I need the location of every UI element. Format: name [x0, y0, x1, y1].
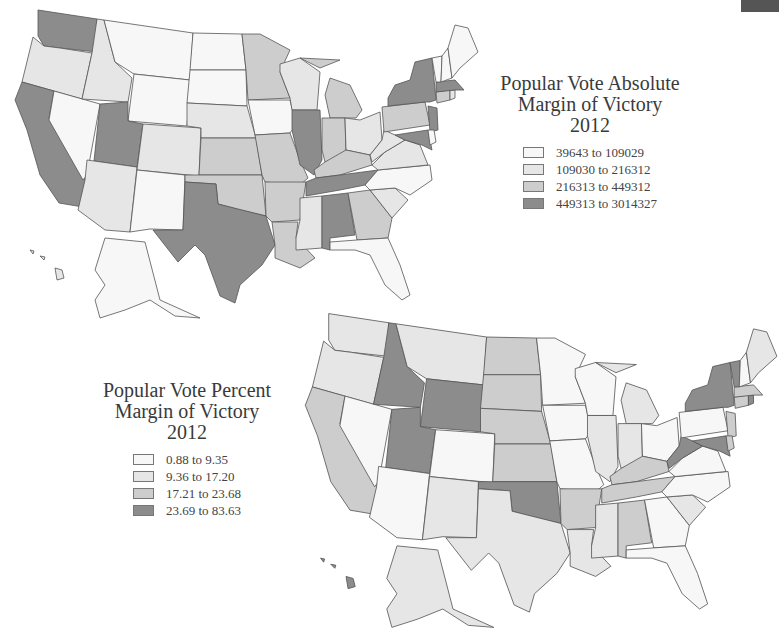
legend-title-line3: 2012 — [490, 115, 690, 136]
map-absolute-margin — [0, 0, 480, 330]
legend-items: 0.88 to 9.35 9.36 to 17.20 17.21 to 23.6… — [133, 451, 241, 519]
state-wy — [420, 379, 483, 432]
state-az — [78, 160, 137, 232]
legend-item: 39643 to 109029 — [523, 144, 657, 161]
state-az — [369, 466, 429, 539]
swatch-class2 — [523, 164, 544, 175]
state-wa — [329, 314, 389, 357]
state-me — [746, 329, 777, 383]
state-me — [448, 25, 478, 78]
state-ri — [450, 90, 455, 100]
legend-absolute: Popular Vote Absolute Margin of Victory … — [490, 73, 690, 213]
state-nj — [428, 106, 438, 132]
legend-item: 0.88 to 9.35 — [133, 451, 241, 468]
state-hi — [321, 558, 356, 589]
swatch-class3 — [133, 488, 154, 499]
swatch-class4 — [523, 198, 544, 209]
legend-title-line1: Popular Vote Absolute — [490, 73, 690, 94]
legend-item: 449313 to 3014327 — [523, 195, 657, 212]
legend-title-line2: Margin of Victory — [82, 401, 292, 422]
legend-item: 216313 to 449312 — [523, 178, 657, 195]
legend-item: 9.36 to 17.20 — [133, 468, 241, 485]
state-hi — [30, 250, 64, 280]
state-nd — [484, 337, 541, 375]
swatch-class1 — [523, 147, 544, 158]
legend-title-line2: Margin of Victory — [490, 94, 690, 115]
state-ks — [199, 138, 262, 175]
swatch-class4 — [133, 505, 154, 516]
legend-label: 17.21 to 23.68 — [166, 486, 241, 502]
legend-label: 23.69 to 83.63 — [166, 503, 241, 519]
state-wy — [128, 74, 190, 126]
state-sd — [481, 375, 542, 412]
state-nm — [130, 170, 185, 232]
state-ri — [748, 395, 753, 405]
state-nj — [726, 411, 736, 437]
legend-items: 39643 to 109029 109030 to 216312 216313 … — [523, 144, 657, 212]
state-ny — [685, 362, 734, 411]
legend-item: 109030 to 216312 — [523, 161, 657, 178]
legend-label: 9.36 to 17.20 — [166, 469, 235, 485]
state-ks — [493, 444, 557, 482]
legend-item: 23.69 to 83.63 — [133, 502, 241, 519]
state-ny — [388, 58, 436, 106]
legend-label: 109030 to 216312 — [556, 162, 651, 178]
state-co — [137, 124, 201, 176]
legend-label: 449313 to 3014327 — [556, 196, 657, 212]
state-ia — [248, 100, 296, 135]
state-pa — [382, 102, 430, 132]
legend-title-line1: Popular Vote Percent — [82, 380, 292, 401]
legend-item: 17.21 to 23.68 — [133, 485, 241, 502]
legend-label: 0.88 to 9.35 — [166, 452, 228, 468]
legend-percent: Popular Vote Percent Margin of Victory 2… — [82, 380, 292, 520]
state-nm — [422, 477, 478, 540]
state-pa — [679, 407, 728, 438]
state-ms — [592, 503, 618, 558]
state-sd — [187, 70, 247, 106]
map-percent-margin — [290, 300, 779, 643]
swatch-class2 — [133, 471, 154, 482]
corner-tab — [741, 0, 779, 12]
us-map-percent — [290, 300, 779, 643]
state-fl — [330, 238, 410, 300]
legend-label: 216313 to 449312 — [556, 179, 651, 195]
state-co — [430, 430, 495, 483]
state-nd — [190, 33, 246, 70]
state-fl — [626, 546, 708, 609]
us-map-absolute — [0, 0, 480, 330]
legend-title-line3: 2012 — [82, 422, 292, 443]
legend-label: 39643 to 109029 — [556, 145, 644, 161]
swatch-class1 — [133, 454, 154, 465]
state-wa — [38, 10, 97, 52]
state-ms — [296, 196, 322, 250]
state-ia — [543, 405, 592, 441]
swatch-class3 — [523, 181, 544, 192]
